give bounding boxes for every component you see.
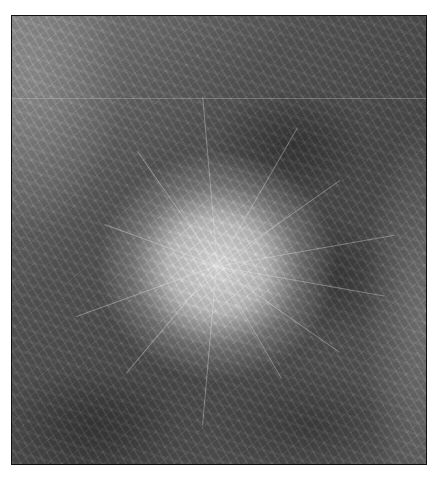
- scan-artifact-line: [12, 98, 426, 99]
- mammogram-image: [11, 15, 427, 465]
